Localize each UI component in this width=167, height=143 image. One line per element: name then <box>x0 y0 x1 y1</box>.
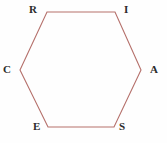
vertex-label-a: A <box>150 64 158 75</box>
hexagon-outline <box>20 12 141 127</box>
vertex-label-c: C <box>3 64 11 75</box>
vertex-label-e: E <box>33 121 40 132</box>
hexagon-figure-canvas: R I A S E C <box>0 0 167 143</box>
hexagon-shape <box>0 0 167 143</box>
vertex-label-i: I <box>124 4 128 15</box>
vertex-label-s: S <box>119 121 125 132</box>
vertex-label-r: R <box>29 4 37 15</box>
